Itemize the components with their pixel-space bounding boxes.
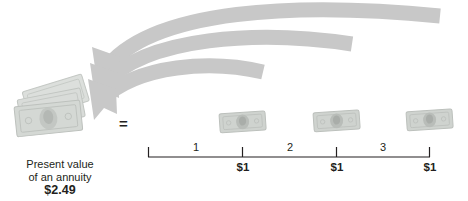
cash-flow-bill-1 — [219, 111, 266, 133]
period-label-3: 3 — [363, 142, 403, 153]
cash-flow-bill-2 — [313, 110, 360, 132]
present-value-label-line1: Present value — [0, 158, 120, 171]
present-value-amount: $2.49 — [0, 184, 120, 197]
annuity-present-value-diagram: = Present value of an annuity $2.49 1 2 … — [0, 0, 468, 201]
cash-flow-bill-3 — [406, 109, 453, 131]
period-label-2: 2 — [270, 142, 310, 153]
period-label-1: 1 — [176, 142, 216, 153]
money-stack-icon — [14, 74, 89, 137]
cash-flow-label-2: $1 — [317, 162, 357, 174]
equals-sign: = — [119, 116, 128, 131]
cash-flow-label-1: $1 — [223, 162, 263, 174]
cash-flow-label-3: $1 — [410, 162, 450, 174]
